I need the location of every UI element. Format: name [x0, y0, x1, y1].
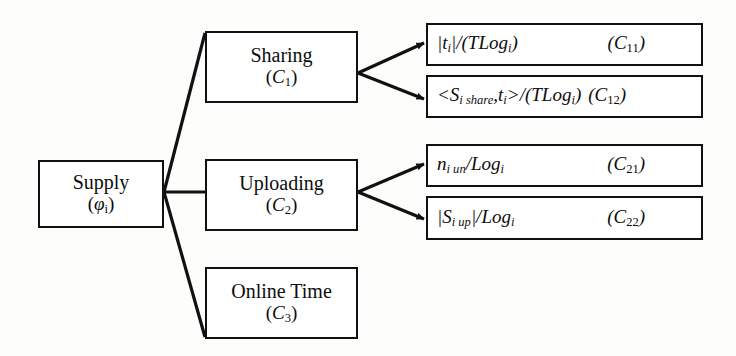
node-c22[interactable]: |Si up|/Logi (C22) [426, 196, 703, 240]
uploading-to-c22-connector [358, 192, 424, 219]
node-uploading-symbol-sub: 2 [285, 203, 291, 217]
node-c21-tag-sub: 21 [626, 163, 639, 177]
diagram-canvas: Supply (φi) Sharing (C1) Uploading (C2) … [0, 0, 736, 356]
node-c12-tag-sub: 12 [607, 94, 620, 108]
node-supply-label: Supply [73, 172, 130, 194]
node-online-time-symbol-base: C [272, 302, 285, 323]
node-c11-expression: |ti|/(TLogi) [437, 32, 518, 56]
node-online-time[interactable]: Online Time (C3) [205, 267, 358, 339]
node-c21-expression: ni un/Logi [437, 153, 504, 177]
node-c12[interactable]: <Si share,ti>/(TLogi) (C12) [426, 75, 703, 118]
node-c12-tag-base: C [595, 84, 608, 105]
node-c12-expression: <Si share,ti>/(TLogi) [437, 84, 581, 108]
root-to-online-time-connector [164, 192, 205, 337]
node-c22-tag-sub: 22 [626, 215, 639, 229]
node-c21[interactable]: ni un/Logi (C21) [426, 144, 703, 187]
node-sharing-label: Sharing [250, 45, 312, 67]
node-c11[interactable]: |ti|/(TLogi) (C11) [426, 23, 703, 66]
node-c22-expression: |Si up|/Logi [437, 206, 514, 230]
root-to-sharing-connector [164, 33, 205, 192]
node-supply-symbol-base: φ [94, 193, 105, 214]
node-sharing-symbol-sub: 1 [285, 75, 291, 89]
node-sharing-symbol-base: C [272, 66, 285, 87]
node-supply-symbol: (φi) [88, 193, 115, 216]
node-online-time-label: Online Time [231, 281, 332, 303]
node-c21-tag-base: C [613, 153, 626, 174]
node-online-time-symbol: (C3) [266, 302, 298, 325]
node-c12-tag: (C12) [588, 84, 626, 108]
uploading-to-c21-connector [358, 164, 424, 192]
node-c21-tag: (C21) [607, 153, 645, 177]
sharing-to-c11-connector [358, 43, 424, 73]
node-sharing-symbol: (C1) [266, 66, 298, 89]
node-c11-tag-base: C [614, 32, 627, 53]
node-supply[interactable]: Supply (φi) [38, 160, 164, 228]
node-c11-tag: (C11) [608, 32, 645, 56]
node-uploading[interactable]: Uploading (C2) [205, 159, 358, 231]
node-uploading-symbol-base: C [272, 194, 285, 215]
sharing-to-c12-connector [358, 73, 424, 99]
node-uploading-label: Uploading [239, 173, 323, 195]
node-uploading-symbol: (C2) [266, 194, 298, 217]
node-sharing[interactable]: Sharing (C1) [205, 31, 358, 103]
node-c22-tag: (C22) [607, 206, 645, 230]
node-supply-symbol-sub: i [105, 202, 108, 216]
node-c22-tag-base: C [613, 206, 626, 227]
node-online-time-symbol-sub: 3 [285, 311, 291, 325]
node-c11-tag-sub: 11 [627, 42, 639, 56]
